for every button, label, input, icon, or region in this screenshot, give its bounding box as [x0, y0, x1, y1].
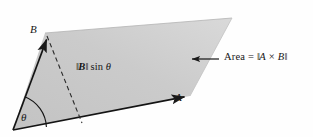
area-word-label: Area [224, 51, 245, 62]
area-first-vector-symbol: A [259, 51, 266, 62]
sine-function-label: sin [88, 61, 106, 72]
norm-bar-close-area: ‖ [284, 51, 286, 62]
parallelogram-shaded-area [13, 18, 232, 130]
diagram-canvas [0, 0, 313, 137]
area-expression-label: Area = ‖A × B‖ [224, 52, 287, 63]
angle-theta-label: θ [21, 112, 26, 123]
height-angle-symbol: θ [106, 61, 111, 72]
vector-cross-product-figure: B A θ ‖B‖ sin θ Area = ‖A × B‖ [0, 0, 313, 137]
vector-b-label: B [30, 24, 37, 35]
vector-a-label: A [175, 92, 182, 103]
height-expression-label: ‖B‖ sin θ [76, 62, 111, 73]
